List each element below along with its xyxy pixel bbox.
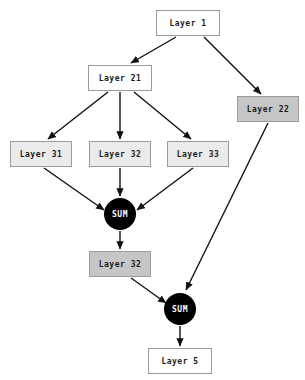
- node-layer-5[interactable]: Layer 5: [148, 348, 212, 374]
- node-layer-22[interactable]: Layer 22: [237, 96, 299, 122]
- node-sum-upper[interactable]: SUM: [104, 198, 136, 230]
- node-layer-31[interactable]: Layer 31: [10, 141, 72, 167]
- node-label: SUM: [172, 305, 188, 314]
- node-layer-32-upper[interactable]: Layer 32: [89, 141, 151, 167]
- node-layer-21[interactable]: Layer 21: [88, 65, 152, 91]
- node-label: Layer 32: [99, 260, 142, 269]
- node-layer-32-lower[interactable]: Layer 32: [89, 251, 151, 277]
- node-label: Layer 33: [177, 150, 220, 159]
- edge-layer32b-to-sum2: [131, 278, 166, 303]
- node-layer-1[interactable]: Layer 1: [156, 10, 220, 36]
- diagram-canvas: Layer 1 Layer 21 Layer 22 Layer 31 Layer…: [0, 0, 305, 380]
- node-label: Layer 1: [169, 19, 206, 28]
- edge-layer31-to-sum1: [44, 168, 104, 210]
- edge-layer21-to-layer33: [134, 92, 191, 139]
- node-label: Layer 5: [161, 357, 198, 366]
- node-sum-lower[interactable]: SUM: [164, 293, 196, 325]
- edge-layer21-to-layer31: [48, 92, 108, 139]
- edge-layer1-to-layer22: [204, 37, 261, 94]
- node-label: Layer 31: [20, 150, 63, 159]
- node-label: Layer 21: [99, 74, 142, 83]
- node-label: Layer 22: [247, 105, 290, 114]
- node-label: SUM: [112, 210, 128, 219]
- edge-layer33-to-sum1: [137, 168, 193, 210]
- node-label: Layer 32: [99, 150, 142, 159]
- edge-layer1-to-layer21: [131, 37, 176, 63]
- node-layer-33[interactable]: Layer 33: [167, 141, 229, 167]
- diagram-edges: [0, 0, 305, 380]
